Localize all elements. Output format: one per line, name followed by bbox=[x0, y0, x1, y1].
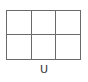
grid-divider-vertical bbox=[31, 11, 32, 59]
layout-option-u[interactable]: U bbox=[0, 0, 88, 82]
grid-layout-icon bbox=[6, 10, 81, 60]
grid-divider-horizontal bbox=[7, 34, 80, 35]
grid-divider-vertical bbox=[55, 11, 56, 59]
layout-option-label: U bbox=[0, 63, 88, 77]
